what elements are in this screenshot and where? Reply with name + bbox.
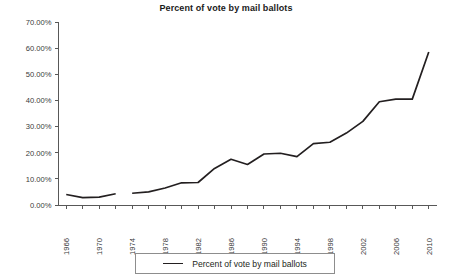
chart-legend: Percent of vote by mail ballots xyxy=(135,253,335,274)
x-axis-tick-label: 2002 xyxy=(359,238,368,255)
x-axis-tick-label: 1966 xyxy=(62,238,71,255)
chart-plot-area: 70.00%60.00%50.00%40.00%30.00%20.00%10.0… xyxy=(0,0,452,280)
y-axis-tick-label: 20.00% xyxy=(26,149,52,158)
data-series-line xyxy=(66,194,115,198)
y-axis: 70.00%60.00%50.00%40.00%30.00%20.00%10.0… xyxy=(26,18,58,210)
chart-container: Percent of vote by mail ballots 70.00%60… xyxy=(0,0,452,280)
x-axis-tick-label: 2010 xyxy=(425,238,434,255)
y-axis-tick-label: 70.00% xyxy=(26,18,52,27)
x-axis-tick-label: 1970 xyxy=(95,238,104,255)
y-axis-tick-label: 40.00% xyxy=(26,96,52,105)
y-axis-tick-label: 10.00% xyxy=(26,175,52,184)
legend-line-swatch-icon xyxy=(163,263,183,264)
data-series-group xyxy=(66,52,429,198)
x-axis-tick-label: 2006 xyxy=(392,238,401,255)
data-series-line xyxy=(132,52,429,193)
y-axis-tick-label: 30.00% xyxy=(26,122,52,131)
x-axis: 1966197019741978198219861990199419982002… xyxy=(58,205,437,255)
y-axis-tick-label: 0.00% xyxy=(30,201,52,210)
y-axis-tick-label: 50.00% xyxy=(26,70,52,79)
legend-label: Percent of vote by mail ballots xyxy=(192,259,307,269)
y-axis-tick-label: 60.00% xyxy=(26,44,52,53)
